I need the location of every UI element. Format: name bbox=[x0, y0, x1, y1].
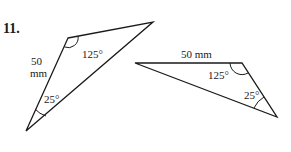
left-triangle: 50 mm 125° 25° bbox=[26, 22, 153, 131]
left-angle-125-label: 125° bbox=[82, 48, 103, 60]
problem-number: 11. bbox=[3, 21, 20, 36]
right-angle-125-label: 125° bbox=[208, 69, 229, 81]
right-triangle: 50 mm 125° 25° bbox=[135, 48, 277, 117]
diagram-canvas: 11. 50 mm 125° 25° 50 mm 125° 25° bbox=[0, 0, 291, 152]
left-side-label-unit: mm bbox=[30, 67, 48, 79]
right-side-label: 50 mm bbox=[181, 48, 212, 60]
right-angle-25-label: 25° bbox=[244, 89, 259, 101]
left-angle-25-label: 25° bbox=[44, 93, 59, 105]
left-side-label-value: 50 bbox=[31, 55, 43, 67]
left-triangle-angle-arc-25 bbox=[35, 109, 46, 116]
